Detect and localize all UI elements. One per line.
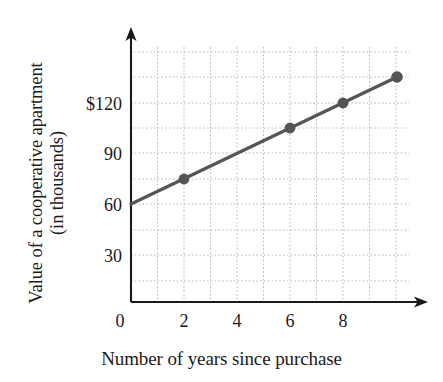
x-tick-label: 6 — [286, 311, 295, 331]
chart-figure: Value of a cooperative apartment (in tho… — [0, 0, 443, 382]
x-tick-label: 0 — [116, 311, 125, 331]
x-tick-label: 2 — [180, 311, 189, 331]
axis-arrowheads — [126, 27, 429, 308]
y-tick-label: 90 — [104, 144, 122, 164]
y-tick-label: 60 — [104, 195, 122, 215]
y-tick-label: 30 — [104, 246, 122, 266]
x-tick-label: 4 — [233, 311, 242, 331]
axes — [131, 33, 422, 302]
plot-area: $120 90 60 30 0 2 4 6 8 — [0, 0, 443, 382]
y-tick-label: $120 — [86, 94, 122, 114]
data-point — [285, 123, 296, 134]
data-point — [179, 174, 190, 185]
x-axis-tick-labels: 0 2 4 6 8 — [116, 311, 348, 331]
data-point — [338, 98, 349, 109]
grid-lines-horizontal — [131, 52, 409, 281]
data-point — [391, 71, 403, 83]
y-axis-tick-labels: $120 90 60 30 — [86, 94, 122, 266]
grid-lines — [131, 47, 409, 302]
x-tick-label: 8 — [339, 311, 348, 331]
